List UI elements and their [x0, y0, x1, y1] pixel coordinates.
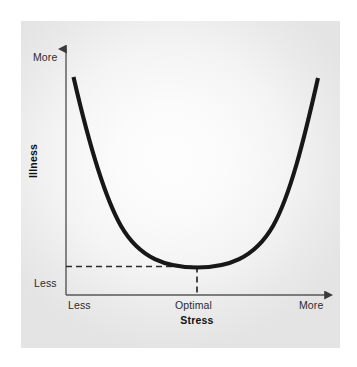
x-axis-center-label: Optimal	[175, 299, 212, 311]
x-axis-right-label: More	[299, 299, 323, 311]
y-axis-title: Illness	[27, 126, 39, 196]
illness-curve	[74, 77, 319, 268]
stress-illness-chart-figure: More Less Illness Less Optimal More Stre…	[0, 0, 357, 367]
x-axis-title: Stress	[163, 314, 231, 326]
y-axis-top-label: More	[33, 51, 57, 63]
x-axis-left-label: Less	[68, 299, 91, 311]
y-axis-bottom-label: Less	[34, 277, 57, 289]
